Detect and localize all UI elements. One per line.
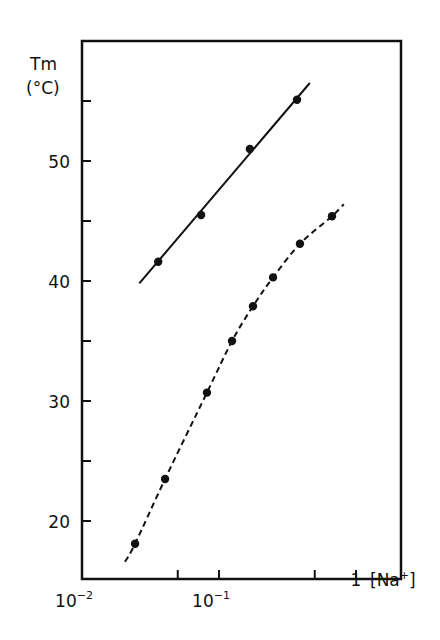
data-point: [161, 475, 169, 483]
x-axis-title: [Na+]: [370, 569, 416, 590]
y-tick-label: 20: [48, 512, 70, 532]
y-axis-title-line1: Tm: [29, 54, 57, 74]
data-point: [293, 96, 301, 104]
data-series: [125, 83, 344, 562]
y-tick-label: 40: [48, 272, 70, 292]
x-tick-label: 10−2: [55, 589, 93, 611]
x-tick-label: 10−1: [192, 589, 230, 611]
chart: 2030405010−210−11 Tm (°C) [Na+]: [0, 0, 440, 640]
axis-labels: Tm (°C) [Na+]: [26, 54, 416, 590]
data-point: [269, 273, 277, 281]
y-tick-label: 30: [48, 392, 70, 412]
y-axis-title-line2: (°C): [26, 78, 60, 98]
plot-border: [82, 41, 401, 579]
data-point: [246, 145, 254, 153]
fit-line-solid: [139, 83, 309, 283]
axis-ticks: 2030405010−210−11: [48, 101, 361, 611]
x-tick-label: 1: [351, 570, 362, 590]
data-point: [249, 302, 257, 310]
plot-frame: [82, 41, 401, 579]
data-point: [328, 212, 336, 220]
data-point: [131, 540, 139, 548]
data-point: [203, 388, 211, 396]
y-tick-label: 50: [48, 152, 70, 172]
data-point: [296, 240, 304, 248]
data-point: [197, 211, 205, 219]
data-point: [154, 258, 162, 266]
data-point: [228, 337, 236, 345]
